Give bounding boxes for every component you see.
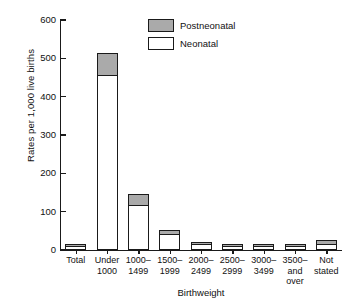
x-axis-category-label: Under 1000 (91, 255, 122, 276)
x-tick-4 (201, 250, 202, 254)
x-tick-7 (295, 250, 296, 254)
segment-neonatal (97, 76, 118, 250)
y-tick-label-400: 400 (24, 92, 56, 101)
x-axis-category-label: 1000– 1499 (123, 255, 154, 276)
y-tick-label-600: 600 (24, 15, 56, 24)
x-tick-1 (107, 250, 108, 254)
gray-swatch-icon (148, 19, 174, 32)
x-tick-2 (138, 250, 139, 254)
white-swatch-icon (148, 37, 174, 50)
chart-legend: Postneonatal Neonatal (148, 19, 278, 55)
x-axis-category-label: 1500– 1999 (154, 255, 185, 276)
legend-item-neonatal: Neonatal (148, 37, 278, 50)
x-tick-6 (264, 250, 265, 254)
x-axis-category-label: 3500– and over (279, 255, 310, 287)
x-axis-category-label: Total (60, 255, 91, 266)
bar-1000--1499 (128, 194, 149, 250)
x-axis-label: Birthweight (60, 287, 342, 298)
stacked-bar-chart: Rates per 1,000 live births 010020030040… (0, 0, 346, 307)
x-tick-8 (326, 250, 327, 254)
y-tick-label-300: 300 (24, 130, 56, 139)
segment-neonatal (159, 235, 180, 250)
x-tick-5 (232, 250, 233, 254)
x-axis-category-label: Not stated (311, 255, 342, 276)
legend-item-postneonatal: Postneonatal (148, 19, 278, 32)
y-tick-label-500: 500 (24, 53, 56, 62)
bar-2000--2499 (191, 242, 212, 250)
segment-neonatal (128, 206, 149, 250)
segment-postneonatal (97, 53, 118, 76)
x-axis-category-label: 2500– 2999 (217, 255, 248, 276)
legend-label-postneonatal: Postneonatal (180, 21, 235, 31)
y-tick-label-100: 100 (24, 207, 56, 216)
legend-label-neonatal: Neonatal (180, 39, 218, 49)
bar-1500--1999 (159, 230, 180, 250)
bar-under-1000 (97, 53, 118, 250)
x-axis-category-label: 3000– 3499 (248, 255, 279, 276)
x-tick-0 (76, 250, 77, 254)
x-tick-3 (170, 250, 171, 254)
y-tick-label-0: 0 (24, 245, 56, 254)
bar-not-stated (316, 240, 337, 250)
segment-postneonatal (128, 194, 149, 206)
y-tick-label-200: 200 (24, 168, 56, 177)
x-axis-category-label: 2000– 2499 (185, 255, 216, 276)
